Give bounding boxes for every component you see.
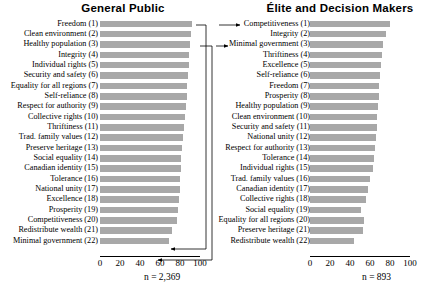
bar-row: Canadian identity (17) — [216, 185, 432, 195]
bar — [310, 41, 383, 48]
bar-row: Minimal government (22) — [0, 236, 216, 246]
bar — [310, 62, 381, 69]
bar — [310, 52, 382, 59]
bar-row: Tolerance (16) — [0, 174, 216, 184]
bar-row: Thriftiness (11) — [0, 122, 216, 132]
sample-size-right: n = 893 — [362, 272, 391, 282]
bar-row: Respect for authority (13) — [216, 143, 432, 153]
bar — [310, 124, 377, 131]
bar-row: Preserve heritage (21) — [216, 226, 432, 236]
bar-row: Collective rights (10) — [0, 112, 216, 122]
bar-row: Healthy population (3) — [0, 40, 216, 50]
bar-row: Individual rights (5) — [0, 60, 216, 70]
bar-row: Self-reliance (6) — [216, 71, 432, 81]
bar — [310, 72, 380, 79]
bar — [100, 176, 180, 183]
bar — [310, 21, 390, 28]
x-axis-ticks-left: 020406080100 — [100, 258, 200, 270]
x-axis-ticks-right: 020406080100 — [310, 258, 410, 270]
x-axis-tick-label: 0 — [98, 258, 103, 268]
bar — [310, 176, 370, 183]
bar-row: National unity (17) — [0, 185, 216, 195]
x-axis-tick-label: 60 — [366, 258, 375, 268]
x-axis-line-left — [100, 256, 200, 257]
bar — [100, 72, 188, 79]
bar-row: Individual rights (15) — [216, 164, 432, 174]
bar-row: Social equality (19) — [216, 205, 432, 215]
bar — [100, 52, 189, 59]
bar — [100, 114, 185, 121]
bar-row: Excellence (5) — [216, 60, 432, 70]
bar-row: Integrity (2) — [216, 29, 432, 39]
bar-row: Freedom (1) — [0, 19, 216, 29]
bar-row: Self-reliance (8) — [0, 91, 216, 101]
bar — [310, 196, 366, 203]
panel-title-elite: Élite and Decision Makers — [216, 2, 432, 14]
bar-row: Prosperity (8) — [216, 91, 432, 101]
bar — [100, 41, 190, 48]
x-axis-tick-label: 0 — [308, 258, 313, 268]
panel-elite-decision-makers: Élite and Decision Makers Competitivenes… — [216, 0, 432, 294]
sample-size-left: n = 2,369 — [144, 272, 180, 282]
bar — [310, 238, 354, 245]
panel-general-public: General Public Freedom (1)Clean environm… — [0, 0, 216, 294]
bar — [310, 145, 375, 152]
bar-row: Redistribute wealth (22) — [216, 236, 432, 246]
x-axis-tick-label: 40 — [346, 258, 355, 268]
bar — [310, 83, 379, 90]
x-axis-tick-label: 100 — [403, 258, 417, 268]
bar-row: Thriftiness (4) — [216, 50, 432, 60]
bar-row: Canadian identity (15) — [0, 164, 216, 174]
bar-row: Security and safety (11) — [216, 122, 432, 132]
x-axis-tick-label: 80 — [386, 258, 395, 268]
bar-chart-figure: General Public Freedom (1)Clean environm… — [0, 0, 432, 294]
bar — [310, 31, 386, 38]
bar — [100, 21, 192, 28]
bar-row: Prosperity (19) — [0, 205, 216, 215]
bar-row: Preserve heritage (13) — [0, 143, 216, 153]
bar — [310, 186, 368, 193]
x-axis-tick-label: 60 — [156, 258, 165, 268]
bar — [100, 227, 172, 234]
bar — [100, 155, 181, 162]
bar-row: Trad. family values (16) — [216, 174, 432, 184]
bar-rows-elite: Competitiveness (1)Integrity (2)Minimal … — [216, 19, 432, 247]
bar-row: National unity (12) — [216, 133, 432, 143]
bar-row: Freedom (7) — [216, 81, 432, 91]
bar — [100, 83, 187, 90]
bar-row: Competitiveness (1) — [216, 19, 432, 29]
bar — [310, 134, 376, 141]
bar-row: Integrity (4) — [0, 50, 216, 60]
bar — [100, 62, 189, 69]
x-axis-line-right — [310, 256, 410, 257]
bar-row: Security and safety (6) — [0, 71, 216, 81]
bar-row: Equality for all regions (7) — [0, 81, 216, 91]
bar — [310, 217, 364, 224]
x-axis-tick-label: 20 — [116, 258, 125, 268]
bar — [310, 207, 361, 214]
bar — [100, 31, 191, 38]
bar — [310, 165, 373, 172]
bar — [100, 196, 179, 203]
bar — [310, 114, 377, 121]
bar-row: Respect for authority (9) — [0, 102, 216, 112]
bar — [100, 134, 183, 141]
bar — [310, 93, 379, 100]
bar-row: Excellence (18) — [0, 195, 216, 205]
bar-row: Equality for all regions (20) — [216, 216, 432, 226]
bar-row: Competitiveness (20) — [0, 216, 216, 226]
bar-row: Minimal government (3) — [216, 40, 432, 50]
bar-row: Clean environment (10) — [216, 112, 432, 122]
x-axis-tick-label: 40 — [136, 258, 145, 268]
bar — [100, 103, 186, 110]
bar — [100, 145, 182, 152]
bar — [100, 124, 184, 131]
bar-rows-general-public: Freedom (1)Clean environment (2)Healthy … — [0, 19, 216, 247]
bar — [100, 238, 169, 245]
bar-row: Collective rights (18) — [216, 195, 432, 205]
bar — [100, 186, 180, 193]
x-axis-tick-label: 100 — [193, 258, 207, 268]
bar-row: Healthy population (9) — [216, 102, 432, 112]
bar — [100, 207, 178, 214]
bar-row: Redistribute wealth (21) — [0, 226, 216, 236]
